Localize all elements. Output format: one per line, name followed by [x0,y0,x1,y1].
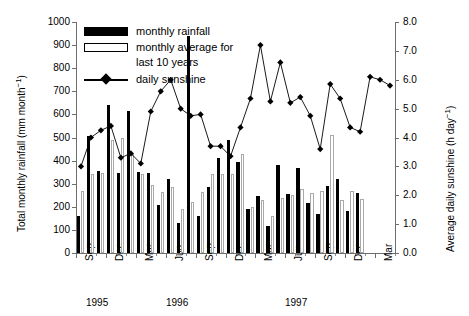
legend-swatch-open-bar-icon [84,43,128,52]
daily-sunshine-marker [88,134,94,140]
x-axis-major-tick [345,254,346,258]
daily-sunshine-marker [188,113,194,119]
legend-label-daily-sunshine: daily sunshine [136,73,206,86]
daily-sunshine-marker [247,95,253,101]
daily-sunshine-marker [198,111,204,117]
y-axis-right-title: Average daily sunshine (h day−1) [443,106,456,252]
y-axis-right-tick-label: 1.0 [403,219,417,229]
y-axis-right-tick-label: 0.0 [403,248,417,258]
y-axis-left-tick-label: 700 [20,86,70,96]
legend-label-monthly-rainfall: monthly rainfall [136,25,210,38]
y-axis-right-tick [395,138,399,139]
daily-sunshine-marker [387,82,393,88]
y-axis-left-tick-label: 0 [20,248,70,258]
legend-swatch-filled-bar-icon [84,27,128,36]
y-axis-right-tick-label: 8.0 [403,17,417,27]
x-axis-minor-tick [126,254,127,256]
daily-sunshine-marker [108,123,114,129]
x-axis-year-label: 1997 [285,298,307,308]
y-axis-right-tick-label: 3.0 [403,161,417,171]
y-axis-left-tick-label: 600 [20,109,70,119]
daily-sunshine-marker [178,106,184,112]
legend-diamond-marker-icon [100,73,111,84]
x-axis-major-tick [285,254,286,258]
y-axis-right-tick [395,80,399,81]
y-axis-right-tick [395,51,399,52]
legend-item-daily-sunshine: daily sunshine [84,72,294,87]
x-axis-minor-tick [96,254,97,256]
y-axis-left-tick-label: 800 [20,63,70,73]
y-axis-left-tick-label: 400 [20,156,70,166]
daily-sunshine-marker [98,127,104,133]
daily-sunshine-marker [367,74,373,80]
legend-label-monthly-average: monthly average for [136,41,233,54]
legend-item-monthly-rainfall: monthly rainfall [84,24,294,39]
daily-sunshine-marker [118,155,124,161]
y-axis-right-tick-label: 2.0 [403,190,417,200]
y-axis-right-tick [395,195,399,196]
x-axis-minor-tick [395,254,396,256]
y-axis-right-tick-label: 5.0 [403,104,417,114]
y-axis-left-tick-label: 500 [20,133,70,143]
daily-sunshine-marker [267,98,273,104]
daily-sunshine-marker [78,163,84,169]
legend-item-monthly-average: monthly average for [84,40,294,55]
y-axis-right-tick [395,109,399,110]
y-axis-left-tick-label: 100 [20,225,70,235]
x-axis-major-tick [226,254,227,258]
x-axis-major-tick [136,254,137,258]
x-axis-year-label: 1995 [86,298,108,308]
x-axis-minor-tick [186,254,187,256]
x-axis-major-tick [106,254,107,258]
x-axis-minor-tick [245,254,246,256]
x-axis-minor-tick [335,254,336,256]
x-axis-major-tick [76,254,77,258]
y-axis-left-tick-label: 1000 [20,17,70,27]
legend-label-monthly-average-cont: last 10 years [136,56,198,69]
daily-sunshine-marker [287,100,293,106]
x-axis-minor-tick [365,254,366,256]
x-axis-minor-tick [275,254,276,256]
y-axis-left-tick-label: 300 [20,179,70,189]
daily-sunshine-marker [307,113,313,119]
daily-sunshine-marker [317,146,323,152]
daily-sunshine-marker [148,108,154,114]
chart-figure: Total monthly rainfall (mm month−1) Aver… [0,0,469,316]
x-axis-major-tick [255,254,256,258]
daily-sunshine-marker [377,77,383,83]
legend-item-monthly-average-line2: last 10 years [84,56,294,71]
daily-sunshine-marker [347,124,353,130]
y-axis-left-tick-label: 200 [20,202,70,212]
x-axis-major-tick [166,254,167,258]
x-axis-major-tick [196,254,197,258]
chart-legend: monthly rainfall monthly average for las… [84,24,294,88]
y-axis-right-tick-label: 6.0 [403,75,417,85]
y-axis-right-tick-label: 4.0 [403,133,417,143]
daily-sunshine-marker [337,95,343,101]
y-axis-right-tick [395,224,399,225]
x-axis-minor-tick [156,254,157,256]
y-axis-right-tick [395,166,399,167]
x-axis-year-label: 1996 [166,298,188,308]
daily-sunshine-marker [327,81,333,87]
daily-sunshine-marker [297,94,303,100]
y-axis-right-tick-label: 7.0 [403,46,417,56]
x-axis-major-tick [375,254,376,258]
daily-sunshine-marker [357,129,363,135]
daily-sunshine-marker [237,124,243,130]
x-axis-major-tick [315,254,316,258]
x-axis-minor-tick [216,254,217,256]
x-axis-minor-tick [305,254,306,256]
daily-sunshine-marker [207,143,213,149]
y-axis-right-tick [395,22,399,23]
y-axis-left-tick-label: 900 [20,40,70,50]
